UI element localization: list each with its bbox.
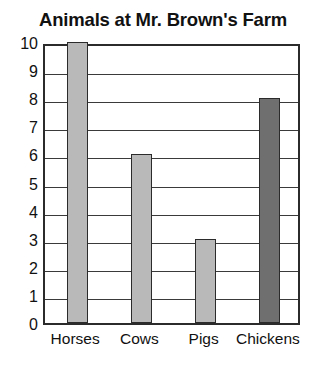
plot-area <box>43 44 300 325</box>
x-axis-label-pigs: Pigs <box>189 330 219 348</box>
y-axis-tick-label: 9 <box>0 64 38 80</box>
y-axis-tick-label: 2 <box>0 261 38 277</box>
y-axis-tick-label: 5 <box>0 177 38 193</box>
x-axis-label-cows: Cows <box>120 330 159 348</box>
y-axis-tick-label: 0 <box>0 317 38 333</box>
y-axis-tick-label: 8 <box>0 92 38 108</box>
y-axis-tick-label: 3 <box>0 233 38 249</box>
bar-pigs <box>195 239 216 323</box>
bars-layer <box>45 46 298 323</box>
y-axis-tick-label: 10 <box>0 36 38 52</box>
y-axis-tick-label: 4 <box>0 205 38 221</box>
bar-horses <box>67 42 88 323</box>
bar-chart-figure: Animals at Mr. Brown's Farm 012345678910… <box>0 0 326 372</box>
y-axis-tick-label: 7 <box>0 120 38 136</box>
x-axis-label-horses: Horses <box>51 330 100 348</box>
y-axis-tick-label: 6 <box>0 148 38 164</box>
bar-cows <box>131 154 152 323</box>
x-axis-label-chickens: Chickens <box>236 330 300 348</box>
bar-chickens <box>259 98 280 323</box>
x-axis-category-labels: HorsesCowsPigsChickens <box>43 330 300 354</box>
y-axis-tick-label: 1 <box>0 289 38 305</box>
y-axis-tick-labels: 012345678910 <box>0 44 38 325</box>
chart-title: Animals at Mr. Brown's Farm <box>0 9 326 31</box>
